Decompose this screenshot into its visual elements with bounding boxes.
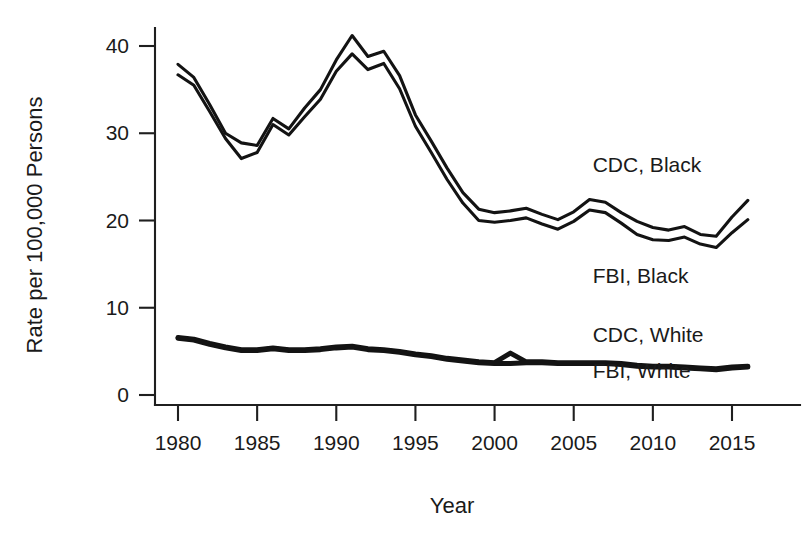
x-axis: 19801985199019952000200520102015 — [155, 405, 800, 454]
x-tick-label: 1985 — [234, 431, 281, 454]
x-tick-label: 1990 — [313, 431, 360, 454]
series-labels-group: CDC, BlackFBI, BlackCDC, WhiteFBI, White — [593, 153, 704, 382]
y-tick-label: 40 — [106, 34, 129, 57]
series-label-cdc-white: CDC, White — [593, 323, 704, 346]
data-series-group — [178, 36, 748, 370]
series-label-fbi-white: FBI, White — [593, 359, 691, 382]
y-tick-label: 10 — [106, 296, 129, 319]
y-tick-label: 0 — [117, 383, 129, 406]
homicide-rate-chart: 010203040 198019851990199520002005201020… — [0, 0, 810, 551]
x-tick-label: 2015 — [709, 431, 756, 454]
x-axis-title: Year — [430, 493, 474, 518]
x-tick-label: 2005 — [550, 431, 597, 454]
x-tick-label: 1995 — [392, 431, 439, 454]
chart-canvas: 010203040 198019851990199520002005201020… — [0, 0, 810, 551]
y-tick-label: 30 — [106, 121, 129, 144]
y-axis: 010203040 — [106, 28, 155, 406]
series-line-fbi-black — [178, 54, 748, 248]
series-label-fbi-black: FBI, Black — [593, 264, 689, 287]
x-tick-label: 2010 — [629, 431, 676, 454]
y-axis-title: Rate per 100,000 Persons — [22, 97, 47, 354]
x-tick-label: 1980 — [155, 431, 202, 454]
series-label-cdc-black: CDC, Black — [593, 153, 702, 176]
series-line-cdc-black — [178, 36, 748, 237]
y-tick-label: 20 — [106, 209, 129, 232]
x-tick-label: 2000 — [471, 431, 518, 454]
